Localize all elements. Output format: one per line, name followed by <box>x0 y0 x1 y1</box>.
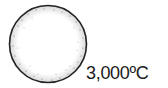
temperature-label: 3,000ºC <box>86 64 149 82</box>
star-circle-icon <box>8 4 88 84</box>
